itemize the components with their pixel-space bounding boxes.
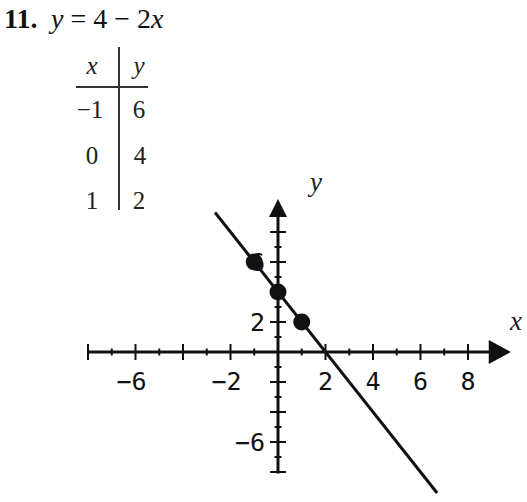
x-tick-label: 2 (318, 367, 333, 396)
x-tick-label: 4 (365, 367, 380, 396)
x-axis-arrow-icon (489, 340, 511, 364)
x-axis-label: x (509, 306, 522, 336)
data-point (293, 314, 310, 331)
textbook-exercise: 11. y = 4 − 2x x y −1 6 0 4 1 2 −6−22468… (0, 0, 527, 502)
x-tick-label: 8 (460, 367, 475, 396)
y-tick-label: 2 (250, 308, 265, 337)
x-tick-label: −2 (211, 367, 241, 396)
line-graph: −6−2246862−6xy (0, 0, 527, 502)
y-tick-label: −6 (235, 428, 265, 457)
x-tick-label: 6 (413, 367, 428, 396)
y-axis-label: y (307, 167, 322, 197)
data-point (246, 254, 263, 271)
y-axis-arrow-icon (269, 199, 287, 217)
data-point (270, 284, 287, 301)
x-tick-label: −6 (116, 367, 146, 396)
